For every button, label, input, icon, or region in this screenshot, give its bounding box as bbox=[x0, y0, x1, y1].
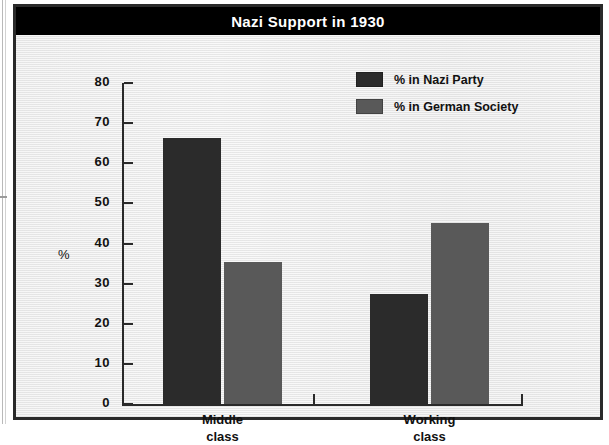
y-axis-tick-label: 20 bbox=[50, 315, 110, 330]
y-axis-tick-label: 60 bbox=[50, 154, 110, 169]
legend-color-swatch bbox=[356, 99, 383, 114]
x-axis-category-label: Middleclass bbox=[143, 411, 303, 445]
y-axis-tick-label: 50 bbox=[50, 194, 110, 209]
x-axis-category-label-line: Working bbox=[350, 411, 510, 428]
chart-figure-frame: Nazi Support in 1930 80706050403020100 %… bbox=[13, 4, 603, 420]
y-axis-tick-label: 0 bbox=[50, 395, 110, 410]
bar bbox=[370, 294, 428, 404]
x-axis-category-label-line: class bbox=[143, 428, 303, 445]
page-edge-nick bbox=[0, 196, 7, 198]
plot-area: 80706050403020100 % MiddleclassWorkingcl… bbox=[16, 35, 600, 417]
legend-item: % in Nazi Party bbox=[356, 69, 518, 90]
bar bbox=[163, 138, 221, 404]
bars-layer bbox=[124, 83, 523, 404]
chart-legend: % in Nazi Party% in German Society bbox=[356, 69, 518, 123]
y-axis-tick-label: 10 bbox=[50, 355, 110, 370]
legend-item-label: % in Nazi Party bbox=[394, 73, 484, 87]
y-axis-tick-label: 70 bbox=[50, 114, 110, 129]
y-axis-tick-label: 80 bbox=[50, 74, 110, 89]
chart-title-bar: Nazi Support in 1930 bbox=[16, 7, 600, 35]
bar bbox=[431, 223, 489, 404]
legend-color-swatch bbox=[356, 72, 383, 87]
x-axis-line bbox=[122, 404, 523, 406]
bar bbox=[224, 262, 282, 404]
x-axis-category-label-line: class bbox=[350, 428, 510, 445]
legend-item: % in German Society bbox=[356, 96, 518, 117]
x-axis-category-label: Workingclass bbox=[350, 411, 510, 445]
chart-title: Nazi Support in 1930 bbox=[231, 13, 385, 30]
y-axis-tick-label: 30 bbox=[50, 275, 110, 290]
x-axis-category-label-line: Middle bbox=[143, 411, 303, 428]
y-axis-title: % bbox=[58, 247, 70, 262]
legend-item-label: % in German Society bbox=[394, 100, 518, 114]
page-edge-line-inner bbox=[5, 0, 6, 424]
page-edge-line-outer bbox=[2, 0, 3, 424]
